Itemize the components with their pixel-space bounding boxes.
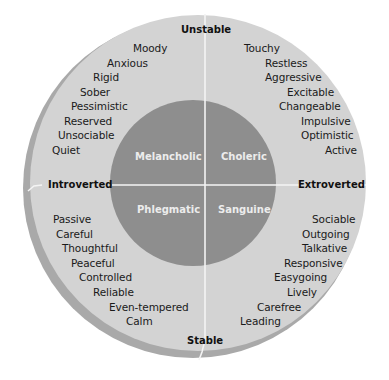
axis-label-unstable: Unstable [181,24,231,36]
trait-item: Sociable [312,213,355,225]
trait-item: Outgoing [302,228,350,240]
temperament-phlegmatic: Phlegmatic [137,204,200,216]
trait-item: Moody [133,42,167,54]
trait-item: Careful [56,228,93,240]
trait-item: Restless [265,57,307,69]
trait-item: Carefree [257,301,301,313]
trait-item: Calm [126,315,153,327]
trait-item: Excitable [287,86,334,98]
axis-label-extroverted: Extroverted [298,179,365,191]
trait-item: Sober [80,86,110,98]
axis-label-introverted: Introverted [48,179,112,191]
trait-item: Lively [287,286,317,298]
trait-item: Changeable [279,100,341,112]
trait-item: Talkative [302,242,347,254]
trait-item: Leading [240,315,281,327]
trait-item: Even-tempered [109,301,189,313]
trait-item: Touchy [244,42,280,54]
axis-label-stable: Stable [187,335,223,347]
trait-item: Reserved [64,115,112,127]
trait-item: Active [325,144,357,156]
trait-item: Controlled [79,271,132,283]
trait-item: Optimistic [301,129,353,141]
temperament-choleric: Choleric [221,151,267,163]
trait-item: Aggressive [265,71,322,83]
trait-item: Pessimistic [71,100,128,112]
temperament-melancholic: Melancholic [135,151,202,163]
trait-item: Rigid [93,71,119,83]
trait-item: Thoughtful [62,242,118,254]
trait-item: Quiet [52,144,80,156]
trait-item: Anxious [107,57,148,69]
trait-item: Responsive [284,257,343,269]
trait-item: Peaceful [71,257,115,269]
inner-circle [110,100,276,266]
trait-item: Unsociable [58,129,114,141]
trait-item: Easygoing [274,271,327,283]
temperament-sanguine: Sanguine [218,204,271,216]
trait-item: Passive [53,213,91,225]
trait-item: Reliable [93,286,134,298]
personality-temperament-diagram: Unstable Stable Introverted Extroverted … [0,0,389,380]
trait-item: Impulsive [301,115,351,127]
